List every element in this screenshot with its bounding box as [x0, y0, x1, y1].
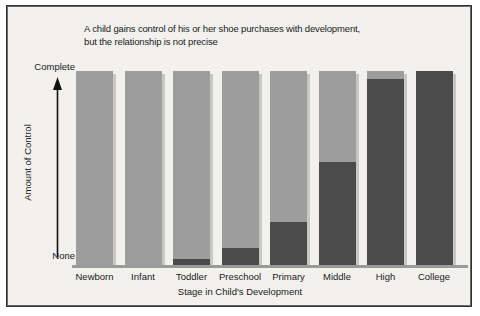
bar-segment-parent-control: [222, 71, 259, 265]
bar-segment-parent-control: [416, 71, 453, 265]
bar-segment-parent-control: [76, 71, 113, 265]
bar-segment-parent-control: [367, 71, 404, 265]
bar-newborn: [76, 71, 113, 265]
x-axis-line: [72, 265, 468, 268]
bar-segment-parent-control: [319, 71, 356, 265]
bar-toddler: [173, 71, 210, 265]
bar-segment-parent-control: [270, 71, 307, 265]
bar-college: [416, 71, 453, 265]
chart-figure: A child gains control of his or her shoe…: [6, 5, 472, 307]
x-axis-tick-college: College: [402, 271, 466, 282]
y-axis-tick-none: None: [19, 250, 75, 261]
plot-area: [72, 67, 464, 267]
x-axis-title: Stage in Child's Development: [10, 286, 470, 297]
bar-segment-parent-control: [173, 71, 210, 265]
chart-title-line-2: but the relationship is not precise: [84, 36, 414, 49]
bar-segment-parent-control: [125, 71, 162, 265]
chart-inner-panel: A child gains control of his or her shoe…: [10, 9, 468, 303]
y-axis-tick-complete: Complete: [19, 61, 75, 72]
bar-segment-child-control: [416, 71, 453, 265]
bar-segment-child-control: [319, 162, 356, 265]
bar-middle: [319, 71, 356, 265]
chart-title: A child gains control of his or her shoe…: [84, 23, 414, 48]
y-axis-title: Amount of Control: [22, 103, 33, 223]
bar-segment-child-control: [367, 79, 404, 265]
chart-title-line-1: A child gains control of his or her shoe…: [84, 23, 414, 36]
bar-primary: [270, 71, 307, 265]
bar-segment-child-control: [222, 248, 259, 265]
bar-segment-child-control: [270, 222, 307, 265]
bar-preschool: [222, 71, 259, 265]
bar-infant: [125, 71, 162, 265]
y-axis-arrow-icon: [52, 77, 63, 257]
bar-high: [367, 71, 404, 265]
